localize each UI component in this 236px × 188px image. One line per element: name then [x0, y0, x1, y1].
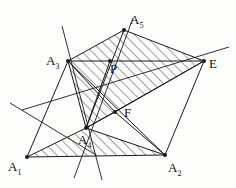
label-subscript-A3: 3: [56, 62, 60, 71]
vertex-label-P: P: [110, 62, 117, 75]
label-base-E: E: [209, 56, 217, 71]
vertex-label-A5: A5: [130, 13, 144, 30]
vertex-dot-A4: [84, 126, 88, 130]
label-base-A2: A: [168, 160, 178, 175]
label-base-A5: A: [130, 12, 140, 27]
vertex-label-E: E: [209, 57, 217, 70]
label-base-F: F: [124, 105, 131, 120]
label-subscript-A4: 4: [88, 141, 92, 150]
label-base-P: P: [110, 61, 117, 76]
vertex-label-A3: A3: [46, 54, 60, 71]
vertex-label-A1: A1: [8, 160, 22, 177]
label-subscript-A1: 1: [18, 168, 22, 177]
vertex-dot-E: [202, 59, 206, 63]
label-base-A1: A: [8, 159, 18, 174]
label-subscript-A2: 2: [178, 169, 182, 178]
vertex-label-F: F: [124, 106, 131, 119]
vertex-dot-A2: [163, 153, 167, 157]
vertex-dot-F: [113, 110, 117, 114]
label-subscript-A5: 5: [140, 21, 144, 30]
vertex-label-A4: A4: [78, 133, 92, 150]
geometry-figure: A1A2A3A4A5EPF: [0, 0, 236, 188]
vertex-dot-A5: [122, 28, 126, 32]
vertex-dot-A3: [66, 59, 70, 63]
vertex-label-A2: A2: [168, 161, 182, 178]
label-base-A3: A: [46, 53, 56, 68]
geometry-canvas: [0, 0, 236, 188]
vertex-dot-A1: [25, 155, 29, 159]
label-base-A4: A: [78, 132, 88, 147]
